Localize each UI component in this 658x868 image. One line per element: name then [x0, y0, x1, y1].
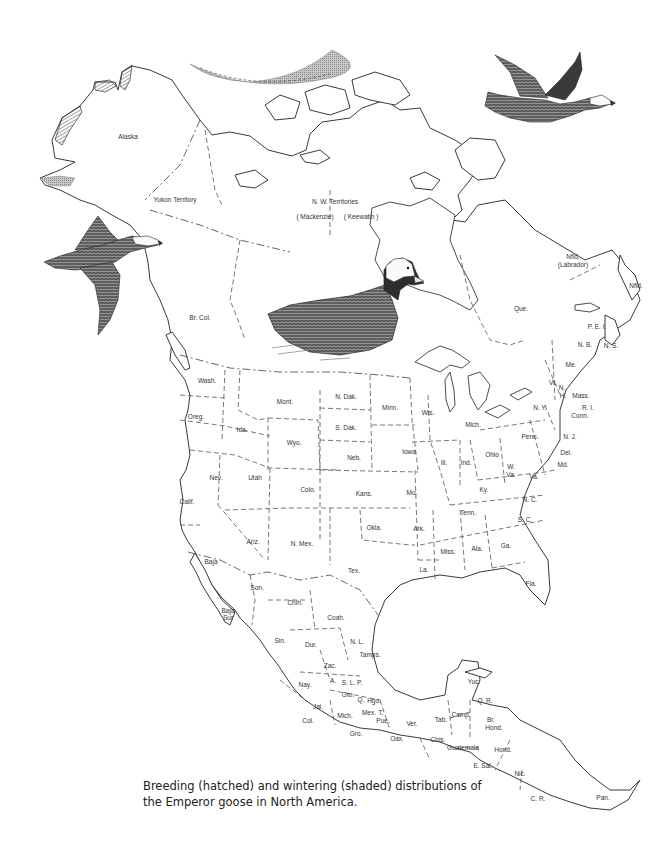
label-nh-h: H. [560, 393, 567, 400]
label-ns: N. S. [604, 343, 618, 350]
label-dur: Dur. [305, 642, 317, 649]
label-nc: N. C. [523, 497, 538, 504]
label-nfld-labrador: Nfld. [566, 254, 579, 261]
label-son: Son. [250, 585, 263, 592]
label-me: Me. [566, 362, 577, 369]
label-coah: Coah. [327, 615, 344, 622]
label-sin: Sin. [274, 638, 285, 645]
label-pan: Pan. [596, 795, 609, 802]
label-qr: Q. R. [477, 698, 492, 705]
label-utah: Utah [248, 475, 262, 482]
label-penn: Penn. [522, 434, 539, 441]
label-okla: Okla. [366, 525, 381, 532]
label-nic: Nic. [514, 771, 525, 778]
label-ala: Ala. [471, 546, 482, 553]
label-slp: S. L. P. [342, 680, 362, 687]
label-brcol: Br. Col. [189, 315, 210, 322]
label-mich: Mich. [465, 422, 481, 429]
label-baja-sur: Baja Sur [219, 608, 237, 621]
label-fla: Fla. [526, 581, 537, 588]
label-ny: N. Y. [533, 405, 547, 412]
label-q: Q. [358, 697, 365, 704]
label-chis: Chis. [431, 737, 446, 744]
label-col: Col. [302, 718, 314, 725]
label-alaska: Alaska [118, 134, 138, 141]
label-mo: Mo. [407, 490, 418, 497]
label-nh-n: N. [559, 385, 566, 392]
label-minn: Minn. [382, 405, 398, 412]
label-ariz: Ariz. [247, 539, 260, 546]
label-nl: N. L. [350, 639, 364, 646]
label-la: La. [419, 567, 428, 574]
label-tab: Tab. [435, 717, 447, 724]
label-ky: Ky. [480, 487, 489, 494]
label-yuc: Yuc. [468, 679, 481, 686]
label-guatemala: Guatemala [447, 745, 479, 752]
label-oax: Oax. [390, 736, 404, 743]
label-keewatin: ( Keewatin ) [344, 214, 379, 221]
label-que: Que. [514, 306, 528, 313]
label-cr: C. R. [531, 796, 546, 803]
aleutian-wintering-band [190, 50, 351, 84]
label-nfld: Nfld. [629, 283, 642, 290]
label-mass: Mass. [572, 393, 589, 400]
north-america-map [0, 0, 658, 868]
label-sc: S. C. [518, 517, 532, 524]
label-wis: Wis. [422, 410, 435, 417]
label-sdak: S. Dak. [335, 425, 356, 432]
label-yukon: Yukon Territory [153, 197, 196, 204]
label-labrador: (Labrador) [558, 262, 588, 269]
label-pue: Pue. [376, 718, 389, 725]
label-nev: Nev. [210, 475, 223, 482]
label-colo: Colo. [300, 487, 315, 494]
label-tex: Tex. [348, 568, 360, 575]
label-wva-va: Va. [506, 472, 515, 479]
label-zac: Zac. [324, 663, 337, 670]
label-miss: Miss. [440, 549, 455, 556]
label-iowa: Iowa [402, 449, 416, 456]
label-nwt: N. W. Territories [312, 199, 358, 206]
label-gto: Gto. [342, 692, 354, 699]
label-md: Md. [558, 462, 569, 469]
label-mont: Mont. [277, 399, 293, 406]
label-mex: Mex. [362, 710, 376, 717]
label-jal: Jal. [313, 704, 323, 711]
label-kans: Kans. [356, 491, 373, 498]
label-oreg: Oreg. [188, 414, 204, 421]
label-nb: N. B. [578, 342, 592, 349]
label-tenn: Tenn. [460, 510, 476, 517]
label-hgo: Hgo. [367, 698, 381, 705]
label-brhond-br: Br. [487, 717, 495, 724]
label-ida: Ida. [237, 427, 248, 434]
label-mich-mx: Mich. [337, 713, 353, 720]
label-va: Va. [529, 474, 538, 481]
label-hond: Hond. [494, 747, 511, 754]
label-ark: Ark. [413, 526, 425, 533]
label-del: Del. [560, 450, 572, 457]
label-neb: Neb. [347, 455, 361, 462]
label-calif: Calif. [180, 499, 195, 506]
label-camp: Camp. [451, 712, 470, 719]
label-ver: Ver. [406, 721, 417, 728]
label-nmex: N. Mex. [291, 541, 313, 548]
label-nay: Nay. [299, 682, 312, 689]
label-tamps: Tamps. [360, 652, 381, 659]
label-mackenzie: ( Mackenzie) [296, 214, 333, 221]
label-brhond-hond: Hond. [485, 725, 502, 732]
label-vt: Vt. [549, 380, 557, 387]
label-ill: Ill. [441, 460, 448, 467]
label-elsal: E. Sal. [473, 763, 492, 770]
label-ind: Ind. [461, 460, 472, 467]
label-conn: Conn. [571, 413, 588, 420]
label-chih: Chih. [287, 600, 302, 607]
label-nj: N. J. [563, 434, 576, 441]
label-gro: Gro. [350, 731, 363, 738]
label-ndak: N. Dak. [335, 394, 357, 401]
label-ohio: Ohio [485, 452, 499, 459]
label-ri: R. I. [582, 405, 594, 412]
flying-goose-top-right-illustration [485, 52, 616, 122]
label-baja: Baja [204, 559, 217, 566]
continent-outline [40, 66, 640, 810]
figure-caption: Breeding (hatched) and wintering (shaded… [143, 778, 483, 810]
label-ga: Ga. [501, 543, 511, 550]
